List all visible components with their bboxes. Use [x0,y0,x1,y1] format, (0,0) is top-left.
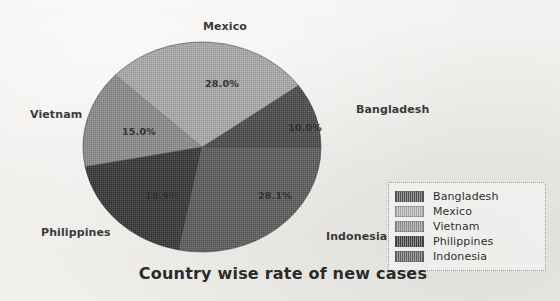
slice-value-indonesia: 28.1% [258,190,292,201]
callout-mexico: Mexico [203,20,247,33]
legend: Bangladesh Mexico Vietnam Philippines In… [388,182,546,271]
pie-texture-overlay [83,42,321,252]
legend-swatch-indonesia [395,251,424,262]
callout-vietnam: Vietnam [30,108,82,121]
legend-item-indonesia: Indonesia [395,249,537,264]
legend-item-mexico: Mexico [395,204,537,219]
slice-value-philippines: 18.9% [145,190,179,201]
callout-philippines: Philippines [41,226,111,239]
callout-indonesia: Indonesia [326,230,387,243]
chart-title: Country wise rate of new cases [0,264,560,283]
pie-graphic [82,41,322,253]
legend-label-indonesia: Indonesia [433,250,487,263]
legend-label-mexico: Mexico [433,205,472,218]
legend-swatch-bangladesh [395,191,424,202]
slice-value-mexico: 28.0% [205,78,239,89]
legend-swatch-vietnam [395,221,424,232]
pie-svg [82,41,322,253]
legend-item-bangladesh: Bangladesh [395,189,537,204]
legend-item-philippines: Philippines [395,234,537,249]
slice-value-vietnam: 15.0% [122,126,156,137]
slice-value-bangladesh: 10.0% [288,122,322,133]
legend-swatch-philippines [395,236,424,247]
callout-bangladesh: Bangladesh [356,103,429,116]
pie-chart: 28.0% 10.0% 15.0% 18.9% 28.1% Mexico Ban… [0,0,560,301]
legend-label-vietnam: Vietnam [433,220,480,233]
legend-label-philippines: Philippines [433,235,493,248]
legend-swatch-mexico [395,206,424,217]
legend-item-vietnam: Vietnam [395,219,537,234]
legend-label-bangladesh: Bangladesh [433,190,499,203]
